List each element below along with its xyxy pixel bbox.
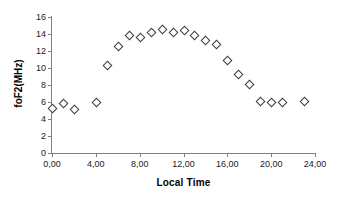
x-axis-tick-mark <box>315 153 316 157</box>
y-axis-tick-label: 12 <box>36 47 46 56</box>
data-point <box>146 28 156 38</box>
y-axis-tick-mark <box>48 68 52 69</box>
data-point <box>190 30 200 40</box>
y-axis-tick-mark <box>48 85 52 86</box>
y-axis-tick-label: 8 <box>41 81 46 90</box>
x-axis-tick-label: 4,00 <box>87 160 105 169</box>
y-axis-tick-label: 4 <box>41 115 46 124</box>
data-point <box>278 98 288 108</box>
x-axis-title: Local Time <box>52 177 315 188</box>
data-point <box>201 35 211 45</box>
data-point <box>234 69 244 79</box>
data-point <box>124 30 134 40</box>
x-axis-tick-mark <box>140 153 141 157</box>
y-axis-title: foF2(MHz) <box>13 39 24 129</box>
y-axis-tick-mark <box>48 51 52 52</box>
plot-area: 0246810121416 0,004,008,0012,0016,0020,0… <box>52 17 315 153</box>
x-axis-tick-label: 0,00 <box>43 160 61 169</box>
data-point <box>212 40 222 50</box>
data-point <box>91 98 101 108</box>
y-axis-tick-label: 10 <box>36 64 46 73</box>
x-axis-tick-label: 24,00 <box>304 160 327 169</box>
chart-figure: 0246810121416 0,004,008,0012,0016,0020,0… <box>0 0 340 202</box>
x-axis-tick-label: 16,00 <box>216 160 239 169</box>
data-point <box>135 33 145 43</box>
y-axis-tick-label: 6 <box>41 98 46 107</box>
x-axis-tick-label: 20,00 <box>260 160 283 169</box>
y-axis-tick-mark <box>48 119 52 120</box>
y-axis-tick-label: 0 <box>41 149 46 158</box>
x-axis-tick-mark <box>96 153 97 157</box>
y-axis-tick-mark <box>48 17 52 18</box>
data-point <box>245 80 255 90</box>
x-axis-tick-label: 8,00 <box>131 160 149 169</box>
x-axis-tick-mark <box>271 153 272 157</box>
data-point <box>179 25 189 35</box>
data-point <box>59 98 69 108</box>
data-point <box>69 104 79 114</box>
data-point <box>267 98 277 108</box>
data-point <box>168 28 178 38</box>
data-point <box>113 41 123 51</box>
y-axis-tick-label: 2 <box>41 132 46 141</box>
data-point <box>223 56 233 66</box>
data-point <box>157 24 167 34</box>
x-axis-tick-mark <box>52 153 53 157</box>
y-axis-tick-mark <box>48 136 52 137</box>
x-axis-tick-mark <box>184 153 185 157</box>
y-axis-tick-label: 16 <box>36 13 46 22</box>
data-point <box>300 97 310 107</box>
y-axis-tick-mark <box>48 34 52 35</box>
data-point <box>48 103 58 113</box>
y-axis-tick-label: 14 <box>36 30 46 39</box>
x-axis-tick-mark <box>227 153 228 157</box>
data-point <box>256 97 266 107</box>
x-axis-tick-label: 12,00 <box>172 160 195 169</box>
data-point <box>102 61 112 71</box>
